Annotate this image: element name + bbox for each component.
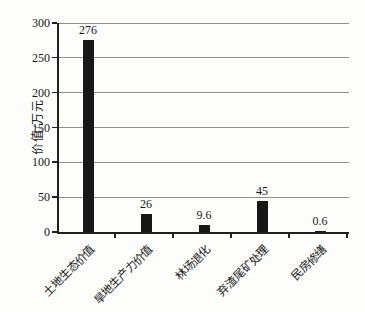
y-tick-label-250: 250 bbox=[16, 52, 50, 64]
gridline-200 bbox=[59, 92, 349, 93]
x-axis-label-4: 弃渣尾矿处理 bbox=[215, 243, 271, 299]
bar-value-label-5: 0.6 bbox=[313, 215, 328, 227]
y-tick-mark-150 bbox=[52, 127, 57, 129]
bar-2 bbox=[141, 214, 152, 232]
gridline-50 bbox=[59, 197, 349, 198]
y-tick-mark-250 bbox=[52, 57, 57, 59]
bar-5 bbox=[315, 231, 326, 233]
x-tick-mark-1 bbox=[114, 234, 116, 238]
gridline-250 bbox=[59, 57, 349, 58]
x-tick-mark-2 bbox=[172, 234, 174, 238]
y-tick-mark-200 bbox=[52, 92, 57, 94]
x-axis-label-1: 土地生态价值 bbox=[41, 243, 97, 299]
bar-value-label-1: 276 bbox=[79, 24, 97, 36]
x-tick-mark-4 bbox=[288, 234, 290, 238]
y-tick-label-100: 100 bbox=[16, 156, 50, 168]
x-tick-mark-3 bbox=[230, 234, 232, 238]
y-tick-mark-300 bbox=[52, 22, 57, 24]
bar-3 bbox=[199, 225, 210, 232]
y-tick-label-300: 300 bbox=[16, 17, 50, 29]
y-tick-label-150: 150 bbox=[16, 122, 50, 134]
bar-value-label-2: 26 bbox=[140, 198, 152, 210]
bar-chart-figure: 价值/万元 276269.6450.6 050100150200250300 土… bbox=[0, 0, 365, 312]
y-tick-mark-100 bbox=[52, 161, 57, 163]
y-tick-label-200: 200 bbox=[16, 87, 50, 99]
x-tick-mark-5 bbox=[346, 234, 348, 238]
bar-value-label-3: 9.6 bbox=[197, 209, 212, 221]
y-tick-mark-50 bbox=[52, 196, 57, 198]
x-axis-label-3: 林场退化 bbox=[173, 243, 213, 283]
bar-1 bbox=[83, 40, 94, 232]
y-tick-mark-0 bbox=[52, 231, 57, 233]
gridline-300 bbox=[59, 23, 349, 24]
bar-value-label-4: 45 bbox=[256, 185, 268, 197]
plot-area: 276269.6450.6 bbox=[57, 23, 349, 234]
y-tick-label-50: 50 bbox=[16, 191, 50, 203]
y-tick-label-0: 0 bbox=[16, 226, 50, 238]
gridline-100 bbox=[59, 162, 349, 163]
x-axis-label-5: 民房修缮 bbox=[289, 243, 329, 283]
gridline-150 bbox=[59, 127, 349, 128]
x-axis-label-2: 旱地生产力价值 bbox=[92, 243, 156, 307]
bar-4 bbox=[257, 201, 268, 232]
